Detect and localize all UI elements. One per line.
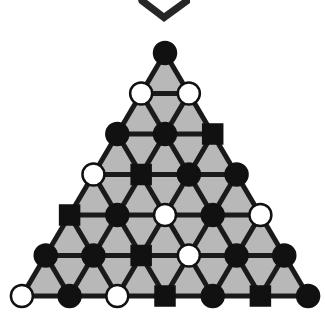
open-circle-node — [106, 285, 128, 307]
filled-circle-node — [202, 204, 224, 226]
filled-circle-node — [106, 123, 128, 145]
open-circle-node — [178, 83, 200, 105]
filled-circle-node — [35, 245, 57, 267]
filled-square-node — [251, 287, 270, 306]
diagram-canvas — [0, 0, 325, 318]
filled-square-node — [132, 246, 151, 265]
open-circle-node — [11, 285, 33, 307]
filled-circle-node — [178, 164, 200, 186]
filled-circle-node — [82, 245, 104, 267]
filled-circle-node — [154, 42, 176, 64]
filled-square-node — [132, 165, 151, 184]
filled-square-node — [60, 206, 79, 225]
filled-circle-node — [226, 164, 248, 186]
open-circle-node — [154, 204, 176, 226]
open-circle-node — [249, 204, 271, 226]
filled-circle-node — [106, 204, 128, 226]
open-circle-node — [178, 245, 200, 267]
filled-circle-node — [297, 285, 319, 307]
filled-circle-node — [273, 245, 295, 267]
filled-square-node — [203, 125, 222, 144]
filled-circle-node — [59, 285, 81, 307]
open-circle-node — [130, 83, 152, 105]
open-circle-node — [82, 164, 104, 186]
filled-square-node — [156, 287, 175, 306]
filled-circle-node — [226, 245, 248, 267]
triangular-lattice-svg — [0, 0, 325, 318]
filled-circle-node — [154, 123, 176, 145]
filled-circle-node — [202, 285, 224, 307]
